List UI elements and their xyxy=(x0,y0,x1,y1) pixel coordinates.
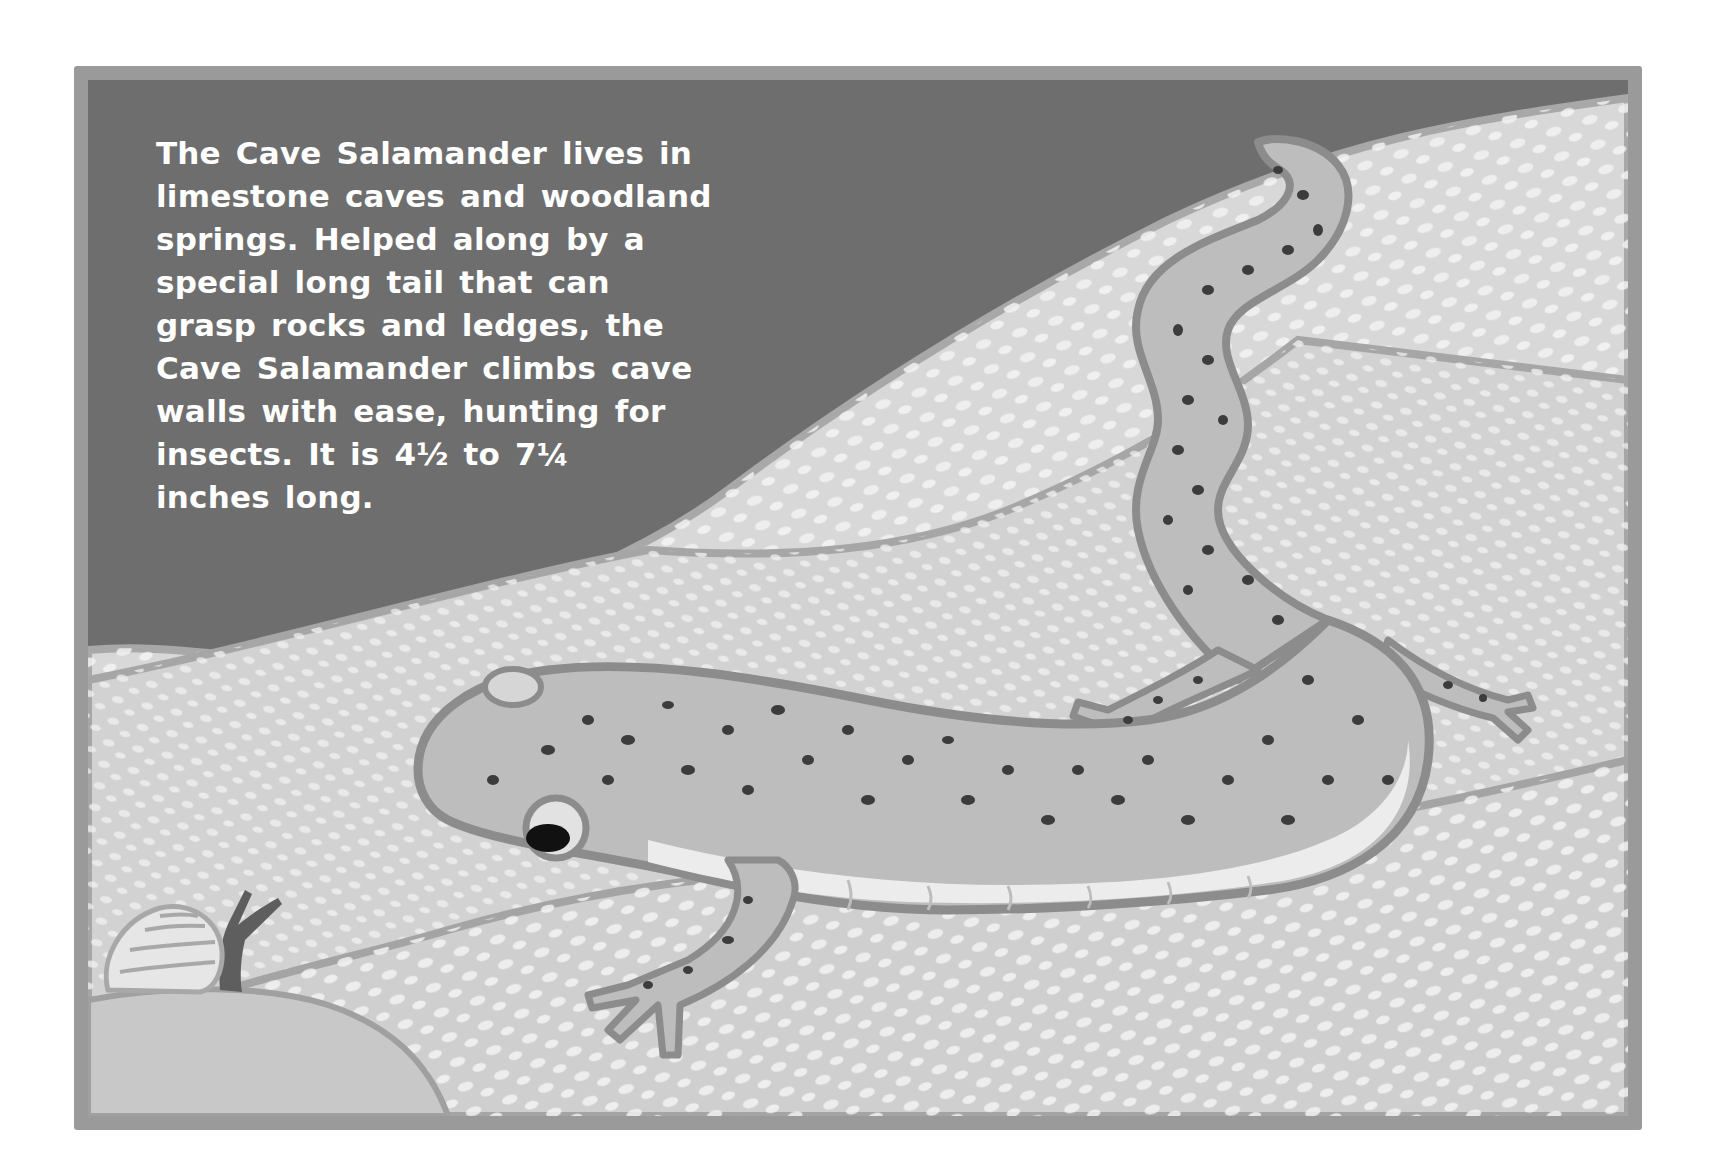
caption-line: walls with ease, hunting for xyxy=(156,390,696,433)
caption-line: grasp rocks and ledges, the xyxy=(156,304,696,347)
illustration-canvas: The Cave Salamander lives in limestone c… xyxy=(88,80,1628,1116)
caption-text: The Cave Salamander lives in limestone c… xyxy=(156,132,696,519)
caption-line: special long tail that can xyxy=(156,261,696,304)
caption-line: insects. It is 4½ to 7¼ xyxy=(156,433,696,476)
salamander-eye xyxy=(526,798,586,858)
caption-line: inches long. xyxy=(156,476,696,519)
caption-line: The Cave Salamander lives in xyxy=(156,132,696,175)
caption-line: Cave Salamander climbs cave xyxy=(156,347,696,390)
painted-frame: The Cave Salamander lives in limestone c… xyxy=(74,66,1642,1130)
caption-line: limestone caves and woodland xyxy=(156,175,696,218)
caption-line: springs. Helped along by a xyxy=(156,218,696,261)
